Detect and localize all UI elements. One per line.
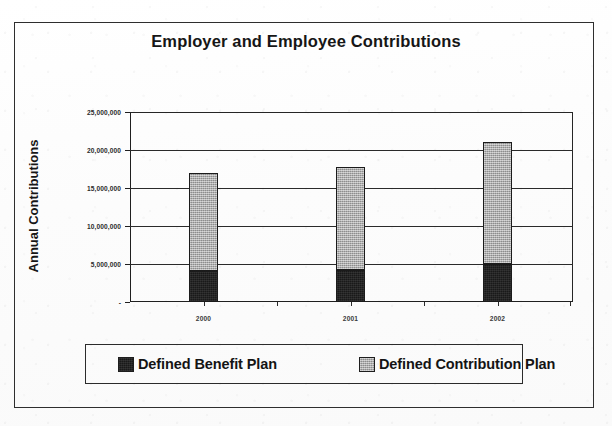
x-tick-mark-minor [570, 302, 571, 306]
y-tick-label: - [119, 299, 121, 306]
bar-segment[interactable] [483, 264, 512, 302]
bar-segment[interactable] [189, 271, 218, 302]
y-tick-mark [125, 226, 130, 227]
x-tick-label: 2000 [196, 315, 211, 322]
chart-legend: Defined Benefit PlanDefined Contribution… [85, 344, 523, 384]
legend-swatch-icon [359, 357, 375, 372]
y-tick-label: 25,000,000 [87, 109, 121, 116]
y-tick-label: 10,000,000 [87, 223, 121, 230]
y-tick-label: 15,000,000 [87, 185, 121, 192]
plot-area: 25,000,00020,000,00015,000,00010,000,000… [130, 112, 573, 302]
x-tick-mark [351, 302, 352, 306]
bar-group[interactable] [336, 112, 365, 302]
x-tick-label: 2002 [490, 315, 505, 322]
chart-screenshot: Employer and Employee Contributions Annu… [0, 0, 612, 426]
legend-label: Defined Contribution Plan [379, 356, 555, 372]
y-tick-mark [125, 264, 130, 265]
y-tick-label: 20,000,000 [87, 147, 121, 154]
x-tick-mark [498, 302, 499, 306]
y-tick-label: 5,000,000 [91, 261, 121, 268]
bar-segment[interactable] [336, 167, 365, 270]
y-axis-title: Annual Contributions [26, 100, 42, 312]
x-tick-mark [204, 302, 205, 306]
x-tick-mark-minor [424, 302, 425, 306]
y-tick-mark [125, 188, 130, 189]
y-tick-mark [125, 150, 130, 151]
legend-label: Defined Benefit Plan [138, 356, 277, 372]
legend-item[interactable]: Defined Contribution Plan [359, 356, 555, 372]
page-title: Employer and Employee Contributions [0, 32, 612, 51]
y-tick-mark [125, 302, 130, 303]
x-tick-label: 2001 [343, 315, 358, 322]
x-tick-mark-minor [277, 302, 278, 306]
bar-group[interactable] [189, 112, 218, 302]
bar-segment[interactable] [483, 142, 512, 264]
legend-swatch-icon [118, 357, 134, 372]
bar-segment[interactable] [336, 270, 365, 302]
bar-segment[interactable] [189, 173, 218, 271]
bar-group[interactable] [483, 112, 512, 302]
y-tick-mark [125, 112, 130, 113]
legend-item[interactable]: Defined Benefit Plan [118, 356, 277, 372]
